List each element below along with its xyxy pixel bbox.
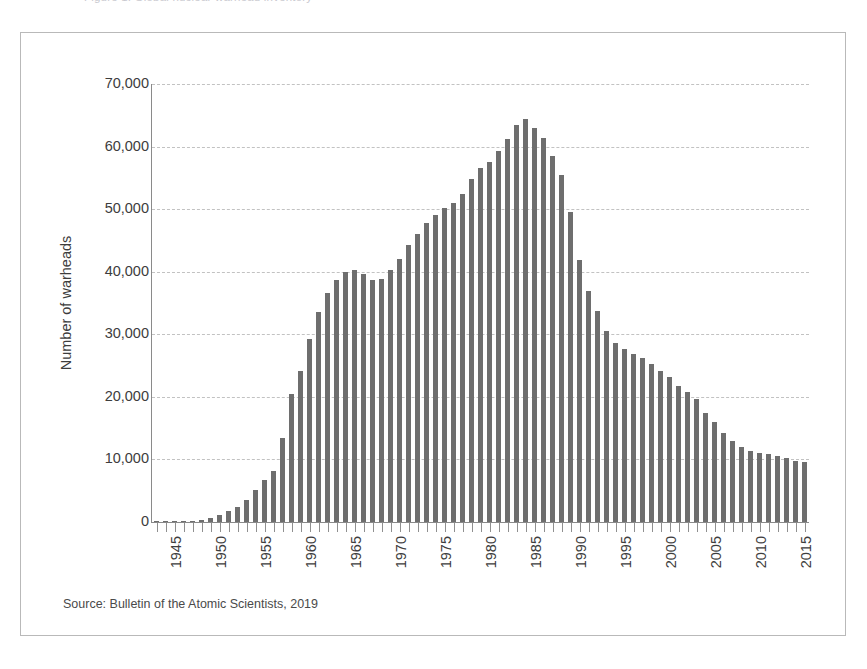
bar <box>478 168 484 522</box>
x-axis-tick <box>571 523 572 532</box>
x-axis-tick <box>778 523 779 532</box>
bar <box>253 490 259 522</box>
bar <box>568 212 574 522</box>
x-axis-tick <box>643 523 644 532</box>
y-axis-tick-label: 40,000 <box>29 263 149 279</box>
bar <box>496 151 502 522</box>
bar <box>487 162 493 522</box>
x-axis-tick <box>166 523 167 532</box>
x-axis-tick <box>211 523 212 532</box>
x-axis-tick <box>670 523 671 532</box>
bar <box>685 392 691 522</box>
bar <box>406 245 412 522</box>
x-axis-tick <box>769 523 770 532</box>
x-axis-tick <box>193 523 194 532</box>
x-axis-tick <box>733 523 734 532</box>
x-axis-tick <box>310 523 311 532</box>
x-axis-tick <box>202 523 203 532</box>
x-axis-tick <box>229 523 230 532</box>
x-axis-tick <box>283 523 284 532</box>
x-axis-tick <box>355 523 356 532</box>
x-axis-tick <box>157 523 158 532</box>
bar <box>532 128 538 522</box>
bar <box>667 377 673 522</box>
x-axis-tick <box>292 523 293 532</box>
bar <box>793 461 799 522</box>
bar <box>433 215 439 522</box>
bar <box>208 518 214 522</box>
bar <box>649 364 655 522</box>
x-axis-tick <box>787 523 788 532</box>
x-axis-tick <box>688 523 689 532</box>
x-axis-tick-label: 1990 <box>573 536 589 568</box>
x-axis-tick <box>805 523 806 532</box>
bar <box>460 194 466 523</box>
x-axis-tick-labels: 1945195019551960196519701975198019851990… <box>152 536 809 606</box>
bar <box>379 279 385 522</box>
bar <box>307 339 313 522</box>
bar <box>577 260 583 522</box>
bar <box>235 507 241 522</box>
bar <box>595 311 601 522</box>
x-axis-tick <box>445 523 446 532</box>
bar <box>604 331 610 522</box>
bar <box>172 521 178 522</box>
bar <box>226 511 232 522</box>
bar <box>523 119 529 522</box>
bar <box>550 156 556 522</box>
y-axis-tick-label: 70,000 <box>29 75 149 91</box>
x-axis-tick-label: 2005 <box>708 536 724 568</box>
x-axis-tick <box>427 523 428 532</box>
bar <box>442 208 448 522</box>
x-axis-tick <box>418 523 419 532</box>
x-axis-tick <box>472 523 473 532</box>
bar <box>802 462 808 522</box>
x-axis-tick <box>796 523 797 532</box>
x-axis-tick <box>697 523 698 532</box>
x-axis-tick-label: 1965 <box>348 536 364 568</box>
x-axis-tick <box>526 523 527 532</box>
x-axis-tick-label: 1970 <box>393 536 409 568</box>
x-axis-tick <box>625 523 626 532</box>
bar <box>631 354 637 522</box>
x-axis-tick <box>238 523 239 532</box>
bar <box>748 451 754 522</box>
bar <box>154 521 160 522</box>
bar <box>271 471 277 522</box>
bar <box>244 500 250 522</box>
y-axis-tick-label: 20,000 <box>29 388 149 404</box>
bar <box>559 175 565 522</box>
x-axis-tick <box>175 523 176 532</box>
bar <box>415 234 421 522</box>
bar <box>262 480 268 522</box>
x-axis-tick <box>580 523 581 532</box>
x-axis-tick <box>751 523 752 532</box>
bar <box>694 399 700 522</box>
x-axis-tick <box>508 523 509 532</box>
bar <box>757 453 763 522</box>
x-axis-tick <box>517 523 518 532</box>
bar <box>370 280 376 522</box>
x-axis-tick-label: 1945 <box>168 536 184 568</box>
x-axis-tick <box>481 523 482 532</box>
x-axis-tick <box>400 523 401 532</box>
bar <box>334 280 340 522</box>
x-axis-tick <box>265 523 266 532</box>
bar <box>190 521 196 522</box>
x-axis-tick-label: 2010 <box>753 536 769 568</box>
x-axis-tick-label: 1995 <box>618 536 634 568</box>
x-axis-tick <box>760 523 761 532</box>
bar <box>298 371 304 522</box>
bar <box>730 441 736 522</box>
bar <box>280 438 286 522</box>
bar <box>514 125 520 522</box>
bar <box>622 349 628 522</box>
x-axis-tick-label: 2000 <box>663 536 679 568</box>
x-axis-tick <box>409 523 410 532</box>
y-axis-title: Number of warheads <box>58 236 74 371</box>
x-axis-tick <box>706 523 707 532</box>
bar <box>181 521 187 522</box>
bar <box>703 413 709 523</box>
figure-frame: 010,00020,00030,00040,00050,00060,00070,… <box>20 32 846 636</box>
top-cut-caption-text: Figure 1. Global nuclear warhead invento… <box>84 0 312 3</box>
